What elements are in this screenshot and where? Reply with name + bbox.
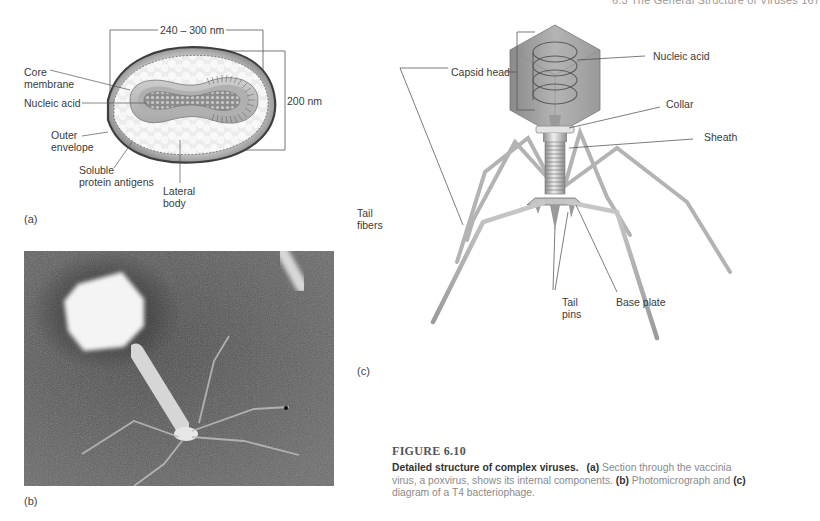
label-sheath: Sheath bbox=[704, 131, 737, 143]
caption-text-c: diagram of a T4 bacteriophage. bbox=[392, 487, 535, 498]
label-lateral-body-line1: Lateral bbox=[163, 185, 195, 197]
panel-a-letter: (a) bbox=[24, 213, 37, 225]
label-tail-pins-line2: pins bbox=[562, 308, 581, 320]
dimension-height-label: 200 nm bbox=[287, 95, 322, 107]
label-soluble-antigens-line2: protein antigens bbox=[79, 176, 154, 188]
label-capsid-head: Capsid head bbox=[451, 66, 510, 78]
label-tail-fibers-line1: Tail bbox=[357, 207, 373, 219]
label-soluble-antigens-line1: Soluble bbox=[79, 164, 114, 176]
caption-marker-a: (a) bbox=[587, 462, 600, 473]
dimension-width-label: 240 – 300 nm bbox=[158, 24, 226, 36]
label-core-membrane-line2: membrane bbox=[24, 78, 74, 90]
panel-c-letter: (c) bbox=[357, 365, 370, 377]
label-core-membrane-line1: Core bbox=[24, 66, 47, 78]
label-collar: Collar bbox=[666, 98, 693, 110]
label-base-plate: Base plate bbox=[616, 296, 666, 308]
label-lateral-body-line2: body bbox=[163, 197, 186, 209]
caption-marker-b: (b) bbox=[616, 475, 629, 486]
caption-text-b: Photomicrograph and bbox=[629, 475, 733, 486]
panel-b-letter: (b) bbox=[24, 495, 37, 507]
label-tail-pins-line1: Tail bbox=[562, 296, 578, 308]
label-nucleic-acid-t4: Nucleic acid bbox=[653, 50, 710, 62]
figure-caption-text: Detailed structure of complex viruses.(a… bbox=[392, 462, 752, 500]
figure-caption: FIGURE 6.10 Detailed structure of comple… bbox=[392, 444, 752, 500]
label-outer-envelope-line2: envelope bbox=[51, 141, 94, 153]
figure-number: FIGURE 6.10 bbox=[392, 444, 752, 459]
label-nucleic-acid: Nucleic acid bbox=[24, 97, 81, 109]
label-outer-envelope-line1: Outer bbox=[51, 129, 77, 141]
photomicrograph-image bbox=[24, 251, 334, 486]
caption-lead: Detailed structure of complex viruses. bbox=[392, 462, 579, 473]
t4-micrograph bbox=[24, 251, 334, 486]
label-tail-fibers-line2: fibers bbox=[357, 219, 383, 231]
caption-marker-c: (c) bbox=[733, 475, 746, 486]
